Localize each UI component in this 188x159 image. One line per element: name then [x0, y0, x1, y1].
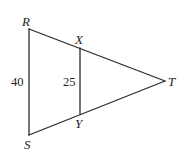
measure-xy-label: 25: [63, 76, 76, 89]
measure-rs-label: 40: [11, 76, 24, 89]
segment-st: [29, 81, 165, 135]
vertex-label-t: T: [168, 75, 175, 88]
vertex-label-x: X: [75, 33, 83, 46]
vertex-label-y: Y: [75, 117, 82, 130]
vertex-label-r: R: [22, 15, 30, 28]
segment-rt: [29, 29, 165, 81]
vertex-label-s: S: [24, 138, 31, 151]
